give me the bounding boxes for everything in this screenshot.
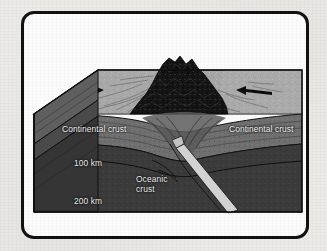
figure-frame: Continental crust Continental crust 100 … xyxy=(21,11,309,239)
block-diagram xyxy=(24,14,312,242)
figure-page: Continental crust Continental crust 100 … xyxy=(0,0,327,251)
